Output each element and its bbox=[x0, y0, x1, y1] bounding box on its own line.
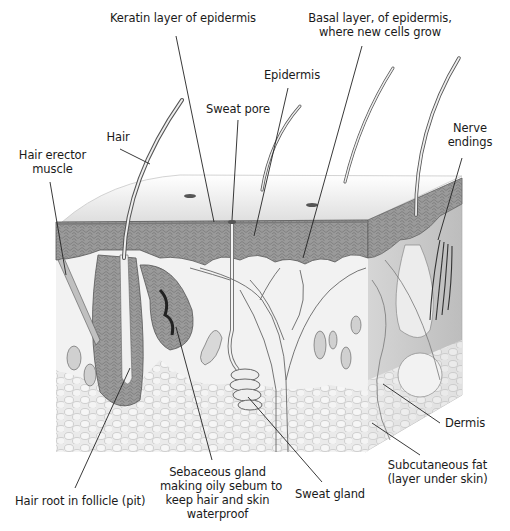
label-hair: Hair bbox=[103, 130, 133, 144]
label-epidermis: Epidermis bbox=[262, 68, 322, 82]
skin-block bbox=[56, 175, 462, 452]
label-subcutaneous: Subcutaneous fat (layer under skin) bbox=[385, 458, 490, 486]
label-hair-root: Hair root in follicle (pit) bbox=[15, 494, 145, 508]
label-sweat-pore: Sweat pore bbox=[203, 102, 273, 116]
skin-illustration bbox=[0, 0, 510, 531]
label-nerve-endings: Nerve endings bbox=[445, 121, 495, 149]
label-hair-erector: Hair erector muscle bbox=[15, 148, 90, 176]
label-sweat-gland: Sweat gland bbox=[295, 487, 365, 501]
label-basal: Basal layer, of epidermis, where new cel… bbox=[300, 11, 460, 39]
label-dermis: Dermis bbox=[440, 416, 490, 430]
label-sebaceous: Sebaceous gland making oily sebum to kee… bbox=[160, 465, 275, 521]
label-keratin: Keratin layer of epidermis bbox=[108, 11, 258, 25]
leader-line-hair bbox=[120, 149, 150, 164]
skin-diagram: Keratin layer of epidermisBasal layer, o… bbox=[0, 0, 510, 531]
